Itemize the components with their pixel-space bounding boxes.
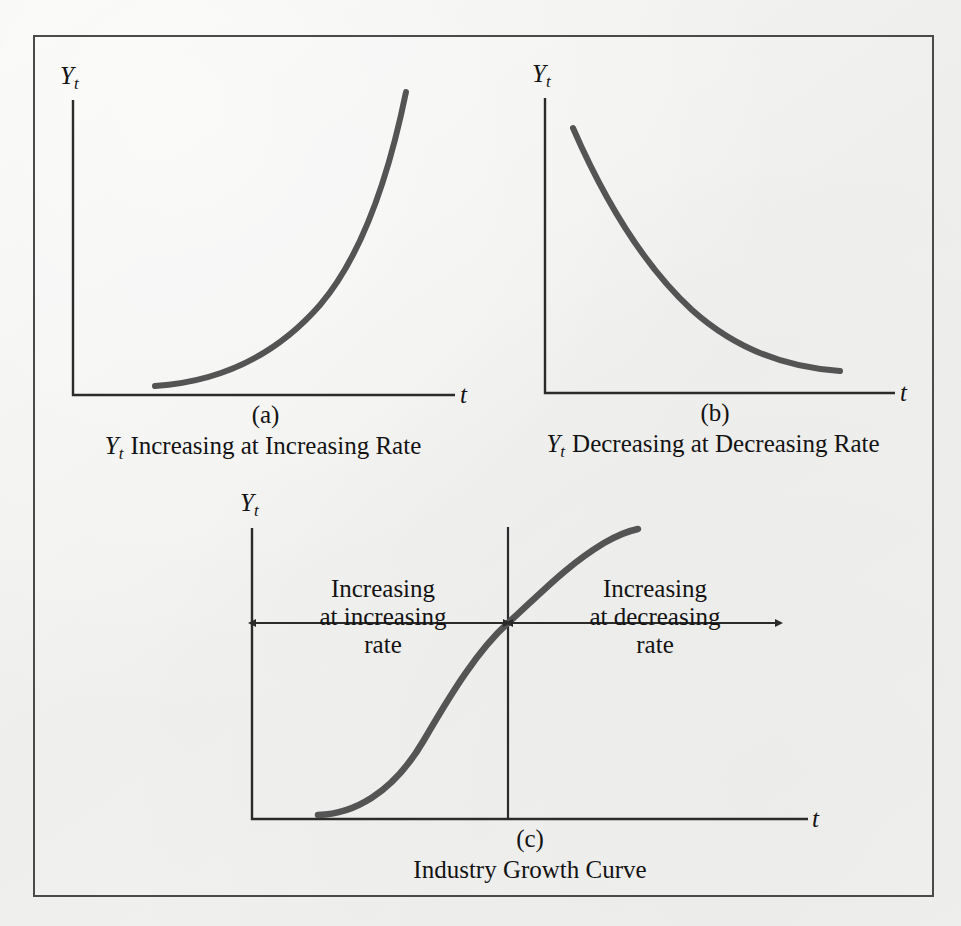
panel-a-letter: (a) xyxy=(73,400,458,430)
panel-c-title: Industry Growth Curve xyxy=(252,854,808,886)
panel-b-letter: (b) xyxy=(520,398,910,428)
panel-c-annotation-right-line3: rate xyxy=(560,631,750,659)
panel-b-title: YtDecreasing at Decreasing Rate xyxy=(498,428,928,464)
panel-c-annotation-right-line1: Increasing xyxy=(560,575,750,603)
panel-a-title-text: Increasing at Increasing Rate xyxy=(130,432,421,459)
panel-c-letter: (c) xyxy=(252,824,808,854)
panel-c-annotation-left-line3: rate xyxy=(288,631,478,659)
panel-b-y-axis-label: Yt xyxy=(532,61,551,94)
panel-a-y-axis-label: Yt xyxy=(60,63,79,96)
panel-b-title-text: Decreasing at Decreasing Rate xyxy=(572,430,879,457)
panel-c-annotation-left-line1: Increasing xyxy=(288,575,478,603)
panel-c-annotation-right-line2: at decreasing xyxy=(560,603,750,631)
panel-a-title: YtIncreasing at Increasing Rate xyxy=(53,430,473,466)
panel-c-annotation-left: Increasing at increasing rate xyxy=(288,575,478,659)
panel-b-title-var: Yt xyxy=(546,430,565,457)
panel-a-x-axis-label: t xyxy=(460,382,467,407)
panel-a-title-var: Yt xyxy=(105,432,124,459)
panel-c-annotation-right: Increasing at decreasing rate xyxy=(560,575,750,659)
figure-page: Yt t (a) YtIncreasing at Increasing Rate… xyxy=(0,0,961,926)
panel-c-x-axis-label: t xyxy=(812,806,819,831)
panel-c-y-axis-label: Yt xyxy=(240,490,259,523)
panel-c-annotation-left-line2: at increasing xyxy=(288,603,478,631)
figure-frame-border xyxy=(33,35,934,897)
